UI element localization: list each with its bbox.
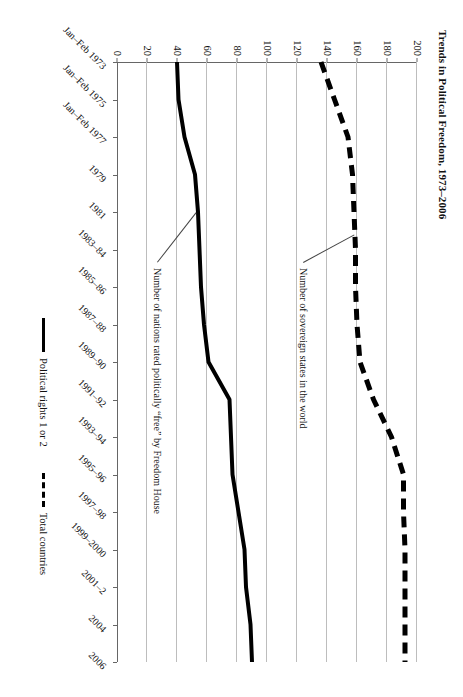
chart-canvas: Trends in Political Freedom, 1973–2006 0… [0,0,463,697]
legend-label-total-countries: Total countries [38,513,49,576]
annotation-total-countries: Number of sovereign states in the world [298,268,309,429]
y-axis-tick-label: 200 [412,40,423,56]
x-axis-tick-label: 2006 [102,665,125,688]
x-axis-tick-mark [113,662,117,663]
y-axis-tick-label: 0 [112,51,123,56]
y-axis-tick-label: 20 [142,46,153,57]
series-line-political-rights [177,62,252,662]
chart-figure: Trends in Political Freedom, 1973–2006 0… [0,0,463,697]
y-axis-tick-label: 160 [352,40,363,56]
legend-swatch-dashed-icon [42,473,45,507]
y-axis-tick-label: 120 [292,40,303,56]
y-axis-tick-label: 40 [172,46,183,57]
plot-area: 020406080100120140160180200 Jan–Feb 1973… [117,62,417,662]
y-axis-tick-label: 140 [322,40,333,56]
y-axis-tick-label: 60 [202,46,213,57]
y-axis-tick-label: 180 [382,40,393,56]
chart-title: Trends in Political Freedom, 1973–2006 [437,30,449,219]
legend-item-total-countries: Total countries [38,473,49,576]
legend-item-political-rights: Political rights 1 or 2 [38,318,49,447]
annotation-free-nations: Number of nations rated politically “fre… [153,268,164,514]
legend-label-political-rights: Political rights 1 or 2 [38,358,49,447]
chart-legend: Political rights 1 or 2 Total countries [38,318,49,575]
y-axis-tick-label: 80 [232,46,243,57]
series-line-total-countries [321,62,405,662]
y-axis-tick-label: 100 [262,40,273,56]
legend-swatch-solid-icon [42,318,45,352]
